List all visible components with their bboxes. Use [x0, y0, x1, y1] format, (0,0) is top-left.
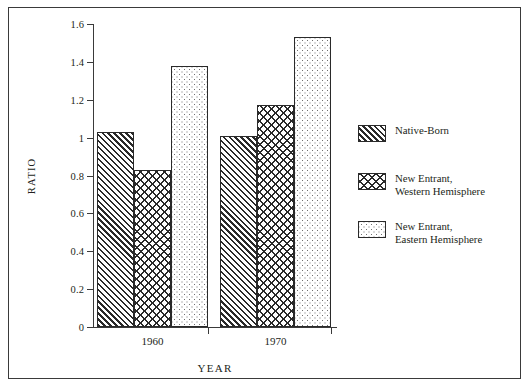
- bar: [294, 37, 331, 327]
- x-tick-mark: [208, 328, 209, 334]
- plot-area: 00.20.40.60.811.21.41.6 19601970 RATIO Y…: [93, 24, 337, 328]
- x-tick-mark: [331, 328, 332, 334]
- y-tick-label: 1: [79, 132, 84, 143]
- y-tick-label: 0.6: [71, 208, 84, 219]
- y-tick-mark: [87, 327, 93, 328]
- y-tick-mark: [87, 176, 93, 177]
- y-tick-mark: [87, 100, 93, 101]
- y-tick-label: 0.8: [71, 170, 84, 181]
- legend-label: New Entrant, Eastern Hemisphere: [395, 220, 508, 245]
- y-tick-mark: [87, 138, 93, 139]
- legend-item: New Entrant, Western Hemisphere: [358, 172, 508, 198]
- y-tick-label: 0.4: [71, 246, 84, 257]
- x-category-label: 1960: [142, 335, 164, 347]
- x-axis-title: YEAR: [93, 362, 337, 374]
- y-tick-mark: [87, 213, 93, 214]
- y-axis-line: [93, 24, 94, 328]
- y-tick-mark: [87, 24, 93, 25]
- y-tick-mark: [87, 289, 93, 290]
- legend-label: Native-Born: [395, 124, 508, 137]
- y-tick-label: 1.4: [71, 56, 84, 67]
- y-tick-label: 0: [79, 322, 84, 333]
- bar: [97, 132, 134, 327]
- y-axis-title: RATIO: [26, 158, 37, 194]
- y-tick-label: 1.6: [71, 19, 84, 30]
- legend-swatch: [358, 173, 386, 190]
- legend-swatch: [358, 221, 386, 238]
- legend-label: New Entrant, Western Hemisphere: [395, 172, 508, 197]
- bar: [220, 136, 257, 327]
- legend-item: New Entrant, Eastern Hemisphere: [358, 220, 508, 246]
- y-tick-label: 0.2: [71, 284, 84, 295]
- y-tick-label: 1.2: [71, 94, 84, 105]
- bar: [171, 66, 208, 327]
- x-axis-line: [93, 327, 337, 328]
- legend-swatch: [358, 125, 386, 142]
- y-tick-mark: [87, 251, 93, 252]
- x-category-label: 1970: [265, 335, 287, 347]
- figure: 00.20.40.60.811.21.41.6 19601970 RATIO Y…: [0, 0, 529, 387]
- legend-item: Native-Born: [358, 124, 508, 150]
- y-tick-mark: [87, 62, 93, 63]
- legend: Native-BornNew Entrant, Western Hemisphe…: [358, 124, 508, 268]
- bar: [257, 105, 294, 327]
- bar: [134, 170, 171, 327]
